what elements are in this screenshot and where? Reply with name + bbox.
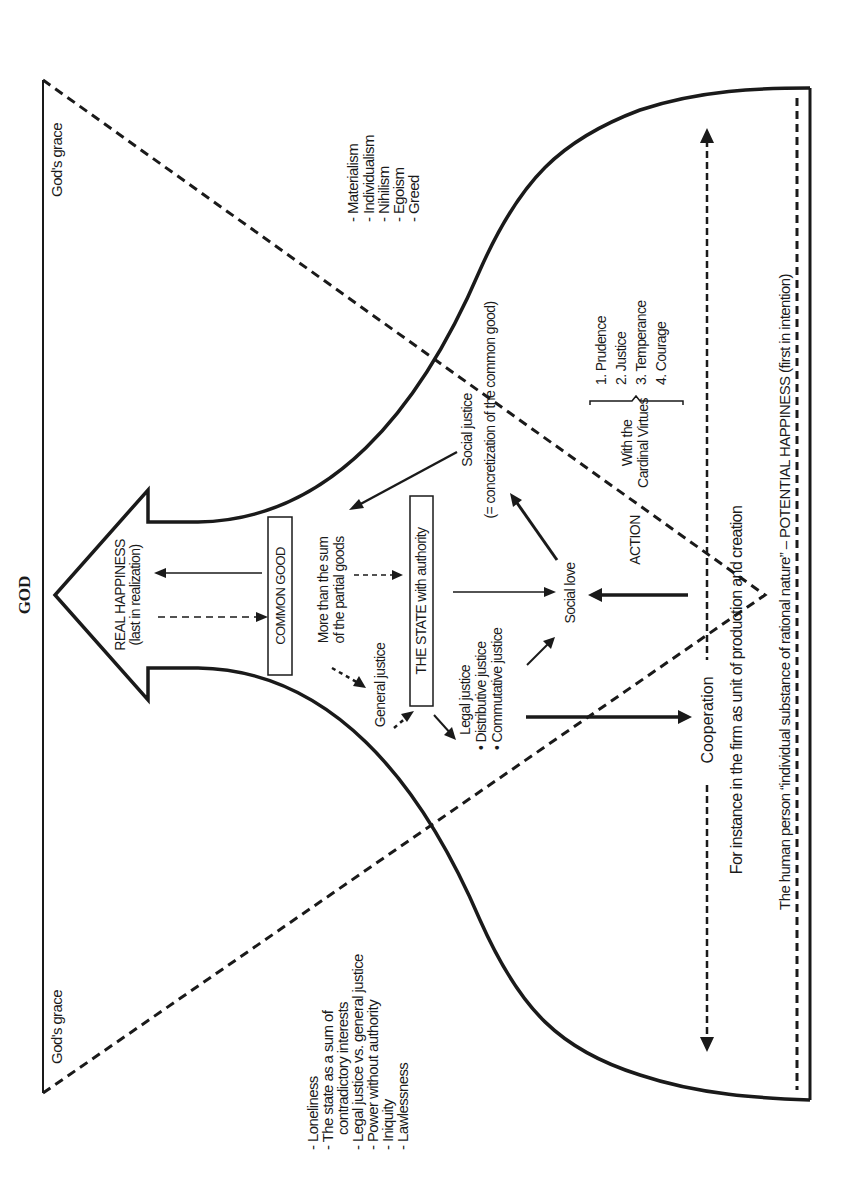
- firm-note: For instance in the firm as unit of prod…: [728, 506, 745, 874]
- real-happiness-label: REAL HAPPINESS: [112, 539, 128, 651]
- arrowhead-icon: [678, 710, 692, 724]
- general-justice-label: General justice: [372, 642, 388, 727]
- arrow-social-justice-to-common: [355, 452, 457, 507]
- common-good-desc-1: More than the sum: [315, 537, 331, 644]
- virtue-item-2: 2. Justice: [613, 331, 629, 385]
- cooperation-label: Cooperation: [699, 676, 716, 763]
- legal-justice-title: Legal justice: [457, 664, 473, 735]
- legal-justice-item-2: • Commutative justice: [489, 627, 505, 750]
- vice-right-5: - Greed: [405, 175, 422, 222]
- legal-justice-item-1: • Distributive justice: [473, 641, 489, 750]
- arrowhead-icon: [392, 570, 403, 580]
- arrowhead-icon: [154, 568, 166, 578]
- arrowhead-up-icon: [700, 128, 714, 143]
- arrowhead-icon: [256, 612, 268, 622]
- arrowhead-icon: [588, 588, 602, 602]
- human-person-label: The human person “individual substance o…: [776, 273, 793, 909]
- action-label: ACTION: [627, 515, 643, 564]
- title-god: GOD: [15, 576, 34, 615]
- vice-left-6: - Lawlessness: [394, 1063, 411, 1150]
- virtue-item-4: 4. Courage: [653, 321, 669, 385]
- vice-right-1: - Materialism: [344, 144, 361, 222]
- cardinal-virtues-line1: With the: [619, 419, 635, 466]
- arrow-social-love-to-social-justice: [515, 500, 557, 560]
- grace-label-bottom: God's grace: [48, 990, 65, 1064]
- arrowhead-icon: [544, 587, 556, 597]
- grace-triangle: [43, 80, 765, 1093]
- grace-label-top: God's grace: [48, 123, 65, 197]
- social-justice-sub: (= concretization of the common good): [482, 301, 498, 518]
- arrowhead-down-icon: [700, 1037, 714, 1052]
- arrow-commutative-to-social-love: [527, 642, 550, 665]
- common-good-diagram: GOD God's grace God's grace REAL HAPPINE…: [0, 0, 848, 1185]
- virtue-item-3: 3. Temperance: [633, 300, 649, 385]
- real-happiness-sub: (last in realization): [127, 545, 143, 646]
- common-good-desc-2: of the partial goods: [331, 536, 347, 644]
- common-good-label: COMMON GOOD: [273, 547, 288, 645]
- state-label: THE STATE with authority: [413, 527, 429, 675]
- social-justice-label: Social justice: [459, 393, 475, 467]
- cardinal-virtues-line2: Cardinal Virtues: [635, 398, 651, 488]
- arrowhead-icon: [349, 499, 364, 510]
- social-love-label: Social love: [562, 562, 578, 624]
- virtue-item-1: 1. Prudence: [593, 315, 609, 385]
